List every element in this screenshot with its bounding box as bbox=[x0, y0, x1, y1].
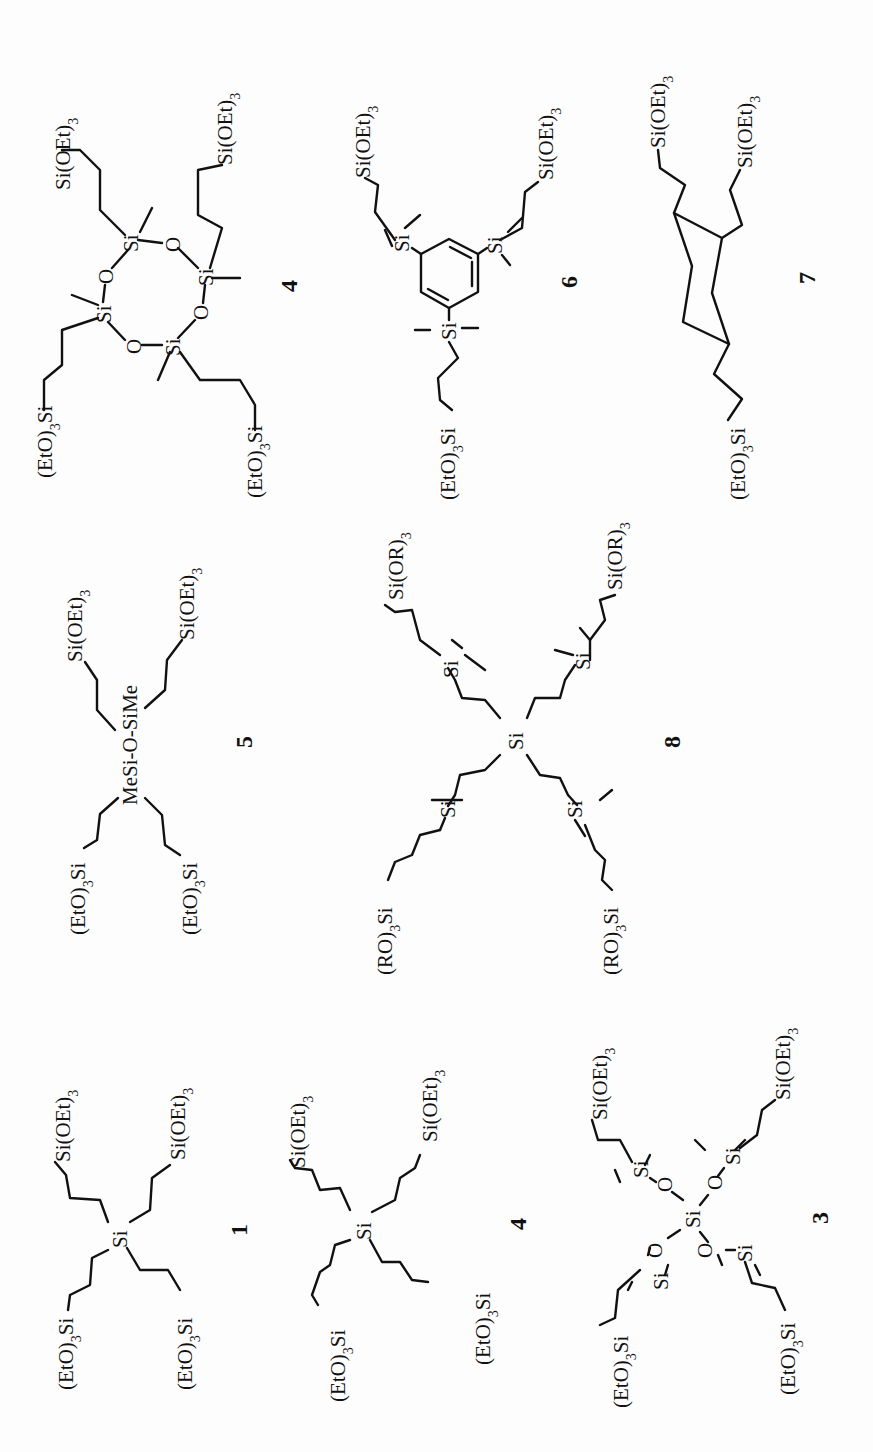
atom-si: Si bbox=[194, 268, 218, 286]
atom-o: O bbox=[94, 269, 118, 284]
sior3-group: Si(OR)3 bbox=[384, 532, 414, 600]
sioet3-group: Si(OEt)3 bbox=[534, 108, 564, 180]
sioet3-group: Si(OEt)3 bbox=[588, 1048, 618, 1120]
atom-si: Si bbox=[390, 234, 414, 252]
compound-label-3: 3 bbox=[807, 1212, 833, 1224]
compound-label-7: 7 bbox=[794, 272, 820, 284]
sioet3-group: Si(OEt)3 bbox=[51, 1090, 81, 1162]
atom-o: O bbox=[122, 339, 146, 354]
atom-si: Si bbox=[629, 1160, 653, 1178]
eto3si-group: (EtO)3Si bbox=[776, 1322, 806, 1395]
eto3si-group: (EtO)3Si bbox=[609, 1335, 639, 1408]
atom-si-core: Si bbox=[108, 1230, 132, 1248]
eto3si-group: (EtO)3Si bbox=[66, 862, 96, 935]
sioet3-group: Si(OEt)3 bbox=[166, 1088, 196, 1160]
atom-o: O bbox=[189, 305, 213, 320]
atom-si: Si bbox=[436, 800, 460, 818]
atom-si-core: Si bbox=[681, 1210, 705, 1228]
atom-si: Si bbox=[483, 236, 507, 254]
eto3si-group: (EtO)3Si bbox=[173, 1317, 203, 1390]
sioet3-group: Si(OEt)3 bbox=[51, 118, 81, 190]
atom-o: O bbox=[161, 237, 185, 252]
eto3si-group: (EtO)3Si bbox=[33, 405, 63, 478]
atom-si: Si bbox=[721, 1147, 745, 1165]
compound-label-5: 5 bbox=[231, 736, 257, 748]
compound-5: MeSi-O-SiMe Si(OEt)3 Si(OEt)3 (EtO)3Si (… bbox=[63, 568, 257, 935]
atom-o: O bbox=[693, 1243, 717, 1258]
ro3si-group: (RO)3Si bbox=[373, 907, 403, 975]
sioet3-group: Si(OEt)3 bbox=[646, 76, 676, 148]
compound-label-4: 4 bbox=[505, 1218, 531, 1230]
chemical-structures-figure: Si O Si O Si O Si O Si(OEt)3 Si(OEt)3 (E… bbox=[0, 0, 873, 1452]
atom-si-core: Si bbox=[352, 1222, 376, 1240]
sior3-group: Si(OR)3 bbox=[603, 522, 633, 590]
compound-3: Si O O O O Si Si Si Si Si(OEt)3 Si(OEt)3… bbox=[588, 1028, 833, 1408]
atom-o: O bbox=[643, 1243, 667, 1258]
compound-label-4: 4 bbox=[276, 280, 302, 292]
compound-label-8: 8 bbox=[659, 736, 685, 748]
sioet3-group: Si(OEt)3 bbox=[63, 590, 93, 662]
atom-si: Si bbox=[563, 800, 587, 818]
eto3si-group: (EtO)3Si bbox=[726, 427, 756, 500]
atom-o: O bbox=[703, 1175, 727, 1190]
sioet3-group: Si(OEt)3 bbox=[771, 1028, 801, 1100]
ro3si-group: (RO)3Si bbox=[599, 907, 629, 975]
compound-4-cyclic: Si O Si O Si O Si O Si(OEt)3 Si(OEt)3 (E… bbox=[33, 93, 302, 498]
atom-si: Si bbox=[733, 1244, 757, 1262]
structures-svg: Si O Si O Si O Si O Si(OEt)3 Si(OEt)3 (E… bbox=[0, 0, 873, 1452]
compound-7: Si(OEt)3 Si(OEt)3 (EtO)3Si 7 bbox=[646, 76, 820, 500]
eto3si-group: (EtO)3Si bbox=[326, 1329, 356, 1402]
sioet3-group: Si(OEt)3 bbox=[418, 1070, 448, 1142]
atom-o: O bbox=[653, 1177, 677, 1192]
eto3si-group: (EtO)3Si bbox=[178, 862, 208, 935]
eto3si-group: (EtO)3Si bbox=[243, 425, 273, 498]
core-mesi-o-sime: MeSi-O-SiMe bbox=[118, 685, 142, 805]
atom-si: Si bbox=[439, 660, 463, 678]
atom-si: Si bbox=[119, 234, 143, 252]
atom-si-core: Si bbox=[504, 732, 528, 750]
atom-si: Si bbox=[571, 652, 595, 670]
compound-label-1: 1 bbox=[226, 1224, 252, 1236]
sioet3-group: Si(OEt)3 bbox=[175, 568, 205, 640]
atom-si: Si bbox=[92, 305, 116, 323]
sioet3-group: Si(OEt)3 bbox=[286, 1096, 316, 1168]
eto3si-group: (EtO)3Si bbox=[54, 1317, 84, 1390]
sioet3-group: Si(OEt)3 bbox=[733, 96, 763, 168]
compound-6: Si Si Si Si(OEt)3 Si(OEt)3 (EtO)3Si 6 bbox=[351, 106, 582, 500]
sioet3-group: Si(OEt)3 bbox=[213, 93, 243, 165]
compound-label-6: 6 bbox=[556, 276, 582, 288]
atom-si: Si bbox=[649, 1272, 673, 1290]
eto3si-group: (EtO)3Si bbox=[471, 1292, 501, 1365]
compound-4-tetrabutyl: Si Si(OEt)3 Si(OEt)3 (EtO)3Si (EtO)3Si 4 bbox=[286, 1070, 531, 1402]
atom-si: Si bbox=[161, 338, 185, 356]
sioet3-group: Si(OEt)3 bbox=[351, 106, 381, 178]
compound-8: Si Si Si Si Si Si(OR)3 Si(OR)3 (RO)3Si (… bbox=[373, 522, 685, 975]
eto3si-group: (EtO)3Si bbox=[436, 427, 466, 500]
atom-si: Si bbox=[437, 322, 461, 340]
compound-1: Si Si(OEt)3 Si(OEt)3 (EtO)3Si (EtO)3Si 1 bbox=[51, 1088, 252, 1390]
